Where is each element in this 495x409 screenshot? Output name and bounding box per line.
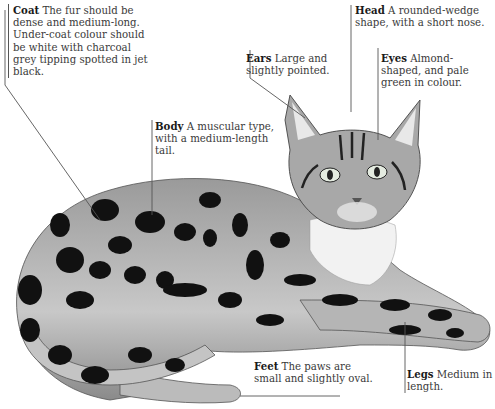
label-coat-title: Coat xyxy=(13,4,39,16)
label-body: Body A muscular type, with a medium-leng… xyxy=(155,120,280,158)
label-coat: Coat The fur should be dense and medium-… xyxy=(8,4,153,78)
label-legs: Legs Medium in length. xyxy=(407,368,495,393)
label-legs-title: Legs xyxy=(407,368,434,380)
label-feet-title: Feet xyxy=(254,360,278,372)
label-ears-title: Ears xyxy=(246,52,271,64)
label-head: Head A rounded-wedge shape, with a short… xyxy=(355,4,490,29)
label-ears: Ears Large and slightly pointed. xyxy=(246,52,346,77)
label-body-title: Body xyxy=(155,120,183,132)
label-head-title: Head xyxy=(355,4,385,16)
label-eyes: Eyes Almond-shaped, and pale green in co… xyxy=(381,52,491,90)
label-feet: Feet The paws are small and slightly ova… xyxy=(254,360,374,385)
label-eyes-title: Eyes xyxy=(381,52,407,64)
